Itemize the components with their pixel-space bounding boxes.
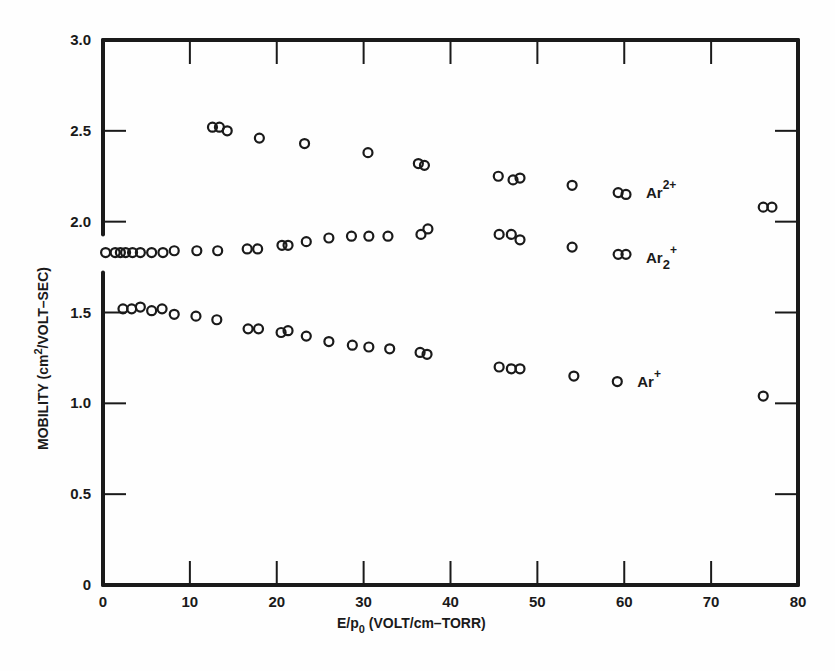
series-label: Ar2+ xyxy=(646,243,677,272)
data-point-marker xyxy=(192,246,201,255)
x-tick-label: 70 xyxy=(703,593,720,610)
data-point-marker xyxy=(147,248,156,257)
data-point-marker xyxy=(147,306,156,315)
data-point-marker xyxy=(568,243,577,252)
data-point-marker xyxy=(383,232,392,241)
data-point-marker xyxy=(348,341,357,350)
data-point-marker xyxy=(284,241,293,250)
x-tick-label: 20 xyxy=(268,593,285,610)
x-tick-label: 80 xyxy=(790,593,807,610)
y-tick-label: 0.5 xyxy=(70,485,91,502)
data-point-marker xyxy=(613,377,622,386)
data-point-marker xyxy=(495,363,504,372)
y-tick-label: 1.0 xyxy=(70,394,91,411)
data-point-marker xyxy=(363,148,372,157)
data-point-marker xyxy=(213,246,222,255)
x-tick-label: 30 xyxy=(355,593,372,610)
data-point-marker xyxy=(244,324,253,333)
data-point-marker xyxy=(254,324,263,333)
mobility-chart: 00.51.01.52.02.53.0 01020304050607080 Ar… xyxy=(0,0,835,671)
data-point-marker xyxy=(223,126,232,135)
series-label: Ar2+ xyxy=(646,178,676,201)
data-point-marker xyxy=(516,235,525,244)
x-tick-label: 0 xyxy=(99,593,107,610)
data-point-marker xyxy=(568,181,577,190)
data-point-marker xyxy=(495,230,504,239)
data-point-marker xyxy=(385,344,394,353)
data-point-marker xyxy=(324,337,333,346)
y-tick-label: 2.5 xyxy=(70,122,91,139)
data-point-marker xyxy=(170,310,179,319)
y-axis-title: MOBILITY (cm2/VOLT–SEC) xyxy=(32,267,51,450)
data-point-marker xyxy=(243,244,252,253)
x-tick-label: 40 xyxy=(442,593,459,610)
series-0 xyxy=(208,123,776,212)
data-point-marker xyxy=(494,172,503,181)
series-2 xyxy=(118,303,767,401)
data-point-marker xyxy=(300,139,309,148)
data-point-marker xyxy=(347,232,356,241)
data-point-marker xyxy=(170,246,179,255)
data-point-marker xyxy=(302,237,311,246)
data-point-marker xyxy=(759,392,768,401)
data-point-marker xyxy=(324,234,333,243)
series-labels: Ar2+Ar2+Ar+ xyxy=(637,178,677,390)
data-point-marker xyxy=(302,332,311,341)
data-point-marker xyxy=(191,312,200,321)
data-point-marker xyxy=(255,134,264,143)
y-tick-label: 2.0 xyxy=(70,213,91,230)
y-tick-label: 3.0 xyxy=(70,31,91,48)
y-tick-label: 1.5 xyxy=(70,304,91,321)
x-axis-ticks: 01020304050607080 xyxy=(99,40,807,610)
x-axis-title: E/p0 (VOLT/cm–TORR) xyxy=(337,615,486,635)
data-point-marker xyxy=(136,303,145,312)
x-tick-label: 60 xyxy=(616,593,633,610)
data-point-marker xyxy=(364,232,373,241)
x-tick-label: 10 xyxy=(182,593,199,610)
x-tick-label: 50 xyxy=(529,593,546,610)
data-point-marker xyxy=(253,244,262,253)
data-point-marker xyxy=(212,315,221,324)
y-tick-label: 0 xyxy=(83,576,91,593)
data-point-marker xyxy=(101,248,110,257)
data-point-marker xyxy=(423,224,432,233)
data-point-marker xyxy=(364,343,373,352)
data-point-marker xyxy=(158,304,167,313)
data-points xyxy=(101,123,776,401)
data-point-marker xyxy=(507,230,516,239)
series-label: Ar+ xyxy=(637,367,661,390)
plot-frame xyxy=(103,40,798,585)
data-point-marker xyxy=(158,248,167,257)
data-point-marker xyxy=(569,372,578,381)
series-1 xyxy=(101,224,630,258)
